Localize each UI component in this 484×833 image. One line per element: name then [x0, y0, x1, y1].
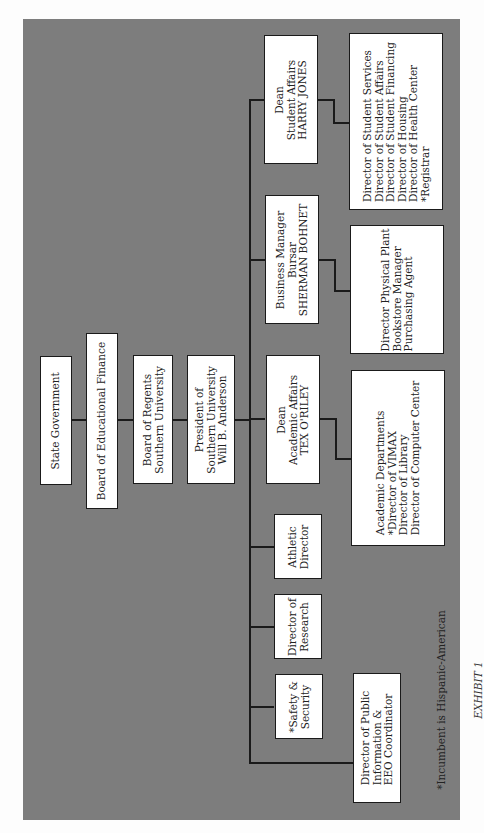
- exhibit-caption: EXHIBIT 1: [472, 661, 484, 718]
- connector-academic-sub-a: [318, 418, 335, 420]
- node-label-line: Director of Library: [398, 381, 410, 535]
- node-label-line: Business Manager: [275, 203, 287, 315]
- node-label-line: Director Physical Plant: [380, 228, 392, 351]
- connector-safety: [249, 706, 274, 708]
- connector-regents-president: [172, 419, 187, 421]
- node-label-line: Academic Departments: [375, 381, 387, 535]
- node-label-line: Director of Computer Center: [410, 381, 422, 535]
- trunk-line: [249, 99, 251, 763]
- node-label-line: EEO Coordinator: [383, 691, 395, 785]
- node-label-line: HARRY JONES: [297, 59, 309, 139]
- node-label-line: *Safety &: [288, 681, 300, 733]
- node-label-line: Director of: [287, 598, 299, 656]
- node-label-line: Southern University: [153, 366, 165, 474]
- connector-student-sub-c: [333, 122, 350, 124]
- connector-business-sub-b: [334, 259, 336, 290]
- connector-dean-student: [249, 99, 265, 101]
- node-athletic-director: Athletic Director: [274, 514, 322, 579]
- node-label-line: President of: [194, 366, 206, 474]
- footnote: *Incumbent is Hispanic-American: [435, 610, 447, 790]
- connector-academic-sub-c: [335, 458, 352, 460]
- connector-research: [249, 626, 274, 628]
- node-label-line: Director of Health Center: [408, 42, 420, 202]
- connector-student-sub-b: [333, 99, 335, 123]
- node-label-line: Security: [299, 681, 311, 733]
- node-business-manager: Business Manager Bursar SHERMAN BOHNET: [265, 195, 319, 324]
- node-label-line: Dean: [274, 59, 286, 139]
- connector-public-info: [249, 762, 354, 764]
- node-business-units: Director Physical Plant Bookstore Manage…: [350, 225, 444, 354]
- node-label: Board of Educational Finance: [96, 342, 108, 500]
- node-dean-student-affairs: Dean Student Affairs HARRY JONES: [264, 35, 318, 164]
- connector-business-sub-c: [334, 290, 351, 292]
- connector-president-trunk: [234, 419, 250, 421]
- node-label-line: TEX O'RILEY: [299, 374, 311, 464]
- node-label-line: Director of Public: [360, 691, 372, 785]
- connector-academic-sub-b: [335, 418, 337, 458]
- connector-dean-academic: [249, 418, 265, 420]
- node-board-educational-finance: Board of Educational Finance: [86, 333, 118, 509]
- node-label-line: Dean: [276, 374, 288, 464]
- node-safety-security: *Safety & Security: [275, 674, 323, 739]
- node-dean-academic-affairs: Dean Academic Affairs TEX O'RILEY: [266, 355, 320, 484]
- node-label: State Government: [50, 372, 62, 469]
- node-president: President of Southern University Will B.…: [187, 355, 235, 484]
- node-label-line: Director of Student Services: [362, 42, 374, 202]
- node-student-affairs-units: Director of Student Services Director of…: [349, 33, 443, 210]
- node-label-line: *Registrar: [419, 42, 431, 202]
- connector-state-board: [71, 419, 86, 421]
- connector-business-sub-a: [318, 259, 335, 261]
- node-label-line: Will B. Anderson: [217, 366, 229, 474]
- node-label-line: Board of Regents: [142, 366, 154, 474]
- connector-athletic: [249, 546, 274, 548]
- node-label-line: SHERMAN BOHNET: [298, 203, 310, 315]
- node-public-information: Director of Public Information & EEO Coo…: [353, 673, 401, 803]
- node-label-line: Director: [298, 524, 310, 568]
- node-label-line: Purchasing Agent: [403, 228, 415, 351]
- node-state-government: State Government: [40, 356, 72, 485]
- connector-student-sub-a: [318, 99, 334, 101]
- node-director-research: Director of Research: [274, 594, 322, 659]
- node-label-line: Research: [298, 598, 310, 656]
- node-label-line: Athletic: [287, 524, 299, 568]
- node-academic-units: Academic Departments *Director of VIMAX …: [351, 370, 445, 546]
- node-label-line: Director of Student Financing: [385, 42, 397, 202]
- connector-board-regents: [117, 419, 133, 421]
- connector-business: [249, 259, 265, 261]
- node-board-of-regents: Board of Regents Southern University: [133, 355, 173, 484]
